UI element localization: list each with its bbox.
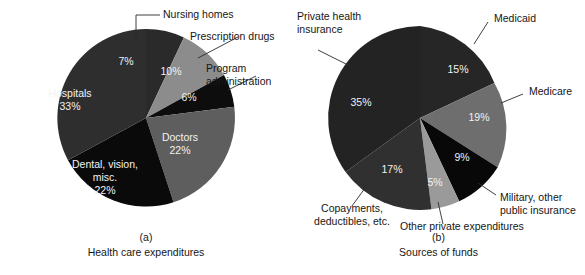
slice-label-nursing-homes-pct: 7% bbox=[118, 55, 133, 67]
caption-letter-b: (b) bbox=[292, 231, 585, 244]
slice-label-copay-pct: 17% bbox=[381, 163, 402, 175]
callout-copay-line2: deductibles, etc. bbox=[292, 215, 412, 228]
callout-program-administration-line1: Program bbox=[206, 62, 271, 75]
callout-private-health-insurance-line1: Private health bbox=[297, 10, 361, 23]
slice-label-military-pct: 9% bbox=[454, 151, 469, 163]
callout-medicaid: Medicaid bbox=[494, 12, 536, 25]
callout-private-health-insurance-line2: insurance bbox=[297, 23, 361, 36]
slice-label-program-administration-pct: 6% bbox=[181, 91, 196, 103]
callout-military-line1: Military, other bbox=[500, 191, 576, 204]
caption-title-a: Health care expenditures bbox=[0, 246, 292, 259]
callout-medicare: Medicare bbox=[529, 85, 572, 98]
leader-medicaid bbox=[474, 22, 488, 44]
callout-nursing-homes: Nursing homes bbox=[163, 8, 234, 21]
slice-label-prescription-drugs-pct: 10% bbox=[160, 65, 181, 77]
slice-label-dental-pct: 22% bbox=[94, 184, 115, 196]
callout-nursing-homes-line1: Nursing homes bbox=[163, 8, 234, 21]
slice-label-dental-line2: misc. bbox=[93, 171, 118, 183]
callout-private-health-insurance: Private health insurance bbox=[297, 10, 361, 35]
callout-copayments-deductibles: Copayments, deductibles, etc. bbox=[292, 202, 412, 227]
leader-military bbox=[478, 183, 496, 195]
slice-label-dental-line1: Dental, vision, bbox=[72, 158, 138, 170]
slice-label-doctors-pct: 22% bbox=[169, 144, 190, 156]
panel-health-care-expenditures: 7% 10% 6% Doctors 22% Dental, vision, mi… bbox=[0, 0, 292, 275]
callout-copay-line1: Copayments, bbox=[292, 202, 412, 215]
slice-label-private-health-pct: 35% bbox=[350, 96, 371, 108]
caption-title-b: Sources of funds bbox=[292, 246, 585, 259]
figure-two-pie-charts: 7% 10% 6% Doctors 22% Dental, vision, mi… bbox=[0, 0, 585, 275]
callout-medicare-line1: Medicare bbox=[529, 85, 572, 98]
callout-prescription-drugs: Prescription drugs bbox=[190, 30, 275, 43]
callout-prescription-drugs-line1: Prescription drugs bbox=[190, 30, 275, 43]
callout-military-line2: public insurance bbox=[500, 204, 576, 217]
slice-label-hospitals-pct: 33% bbox=[59, 100, 80, 112]
slice-label-medicaid-pct: 15% bbox=[447, 63, 468, 75]
caption-letter-a: (a) bbox=[0, 231, 292, 244]
slice-label-hospitals-name: Hospitals bbox=[48, 87, 91, 99]
callout-program-administration: Program administration bbox=[206, 62, 271, 87]
callout-program-administration-line2: administration bbox=[206, 75, 271, 88]
slice-label-other-private-pct: 5% bbox=[427, 176, 442, 188]
callout-medicaid-line1: Medicaid bbox=[494, 12, 536, 25]
leader-private-health-insurance bbox=[318, 50, 354, 68]
callout-military-other-public-insurance: Military, other public insurance bbox=[500, 191, 576, 216]
slice-label-medicare-pct: 19% bbox=[468, 111, 489, 123]
slice-label-doctors-name: Doctors bbox=[162, 131, 198, 143]
leader-medicare bbox=[501, 94, 523, 103]
panel-sources-of-funds: 15% 19% 9% 5% 17% 35% Private health ins… bbox=[292, 0, 585, 275]
